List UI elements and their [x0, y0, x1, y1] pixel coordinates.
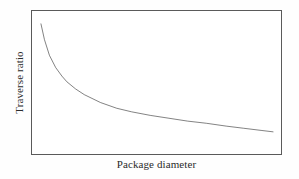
- plot-frame: [31, 10, 282, 155]
- x-axis-label: Package diameter: [31, 158, 282, 170]
- y-axis-label: Traverse ratio: [10, 10, 28, 155]
- curve-plot: [32, 11, 281, 154]
- traverse-ratio-curve: [41, 24, 273, 132]
- figure-canvas: Traverse ratio Package diameter: [0, 0, 299, 179]
